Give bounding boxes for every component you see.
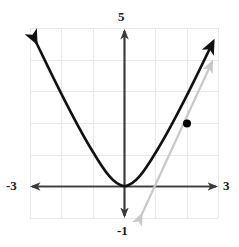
y-axis-max-label: 5 bbox=[118, 10, 125, 23]
y-axis-min-label: -1 bbox=[117, 224, 128, 237]
x-axis-min-label: -3 bbox=[6, 179, 17, 192]
graph-figure: 5 3 -3 -1 bbox=[0, 0, 239, 247]
tangency-point bbox=[183, 120, 191, 128]
coordinate-plane bbox=[0, 0, 239, 247]
x-axis-max-label: 3 bbox=[223, 179, 230, 192]
